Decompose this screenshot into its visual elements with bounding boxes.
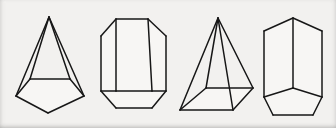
figure-oblique-pyramid: [180, 18, 253, 110]
polyhedra-drawing-canvas: [0, 0, 336, 128]
figure-octagonal-prism: [101, 19, 166, 108]
pentagonal-pyramid-edge-3: [49, 17, 70, 79]
pentagonal-pyramid-edge-2: [30, 17, 49, 79]
octagonal-prism-outline-face: [101, 19, 166, 108]
figure-panel: [0, 0, 336, 128]
figure-pentagonal-pyramid: [16, 17, 84, 113]
figure-pentagonal-prism: [264, 18, 322, 115]
oblique-pyramid-edge-2: [206, 18, 218, 88]
